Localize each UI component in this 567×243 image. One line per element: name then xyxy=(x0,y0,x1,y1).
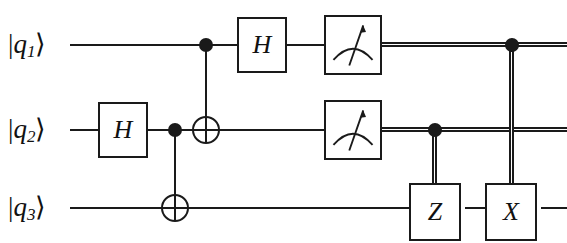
classical-control-dot-q1 xyxy=(505,38,519,52)
pauli-x-gate-label: X xyxy=(503,197,519,227)
measurement-gate-q1[interactable] xyxy=(324,15,382,75)
classical-control-wire-z xyxy=(432,130,437,183)
measurement-gate-q2[interactable] xyxy=(324,100,382,160)
quantum-wire-q3-seg2 xyxy=(465,207,485,209)
qubit-name-q2: q xyxy=(13,114,27,144)
qubit-label-q1: |q1⟩ xyxy=(8,28,46,63)
qubit-label-q2: |q2⟩ xyxy=(8,113,46,148)
meter-icon-q1 xyxy=(326,17,380,73)
pauli-z-gate-label: Z xyxy=(428,197,442,227)
classical-wire-q2 xyxy=(382,127,567,132)
qubit-name-q1: q xyxy=(13,29,27,59)
classical-wire-q1 xyxy=(382,42,567,47)
hadamard-gate-q2[interactable]: H xyxy=(98,102,148,158)
ket-angle-q3: ⟩ xyxy=(35,192,46,222)
pauli-z-gate[interactable]: Z xyxy=(409,183,461,241)
qubit-name-q3: q xyxy=(13,192,27,222)
quantum-wire-q3-seg3 xyxy=(541,207,567,209)
cnot-target-q2 xyxy=(192,116,220,144)
control-dot-q1 xyxy=(199,38,213,52)
quantum-wire-q1-seg2 xyxy=(287,44,324,46)
quantum-wire-q3-seg1 xyxy=(70,207,409,209)
cnot-target-q3 xyxy=(161,194,189,222)
pauli-x-gate[interactable]: X xyxy=(485,183,537,241)
meter-icon-q2 xyxy=(326,102,380,158)
quantum-wire-q2-seg1 xyxy=(70,129,98,131)
classical-control-dot-q2 xyxy=(428,123,442,137)
quantum-circuit-diagram: |q1⟩ |q2⟩ |q3⟩ H H xyxy=(0,0,567,243)
hadamard-gate-q1[interactable]: H xyxy=(237,17,287,73)
classical-control-wire-x xyxy=(509,45,514,183)
ket-angle-q2: ⟩ xyxy=(35,114,46,144)
hadamard-gate-q1-label: H xyxy=(253,30,272,60)
ket-angle-q1: ⟩ xyxy=(35,29,46,59)
hadamard-gate-q2-label: H xyxy=(114,115,133,145)
qubit-label-q3: |q3⟩ xyxy=(8,191,46,226)
control-dot-q2 xyxy=(168,123,182,137)
